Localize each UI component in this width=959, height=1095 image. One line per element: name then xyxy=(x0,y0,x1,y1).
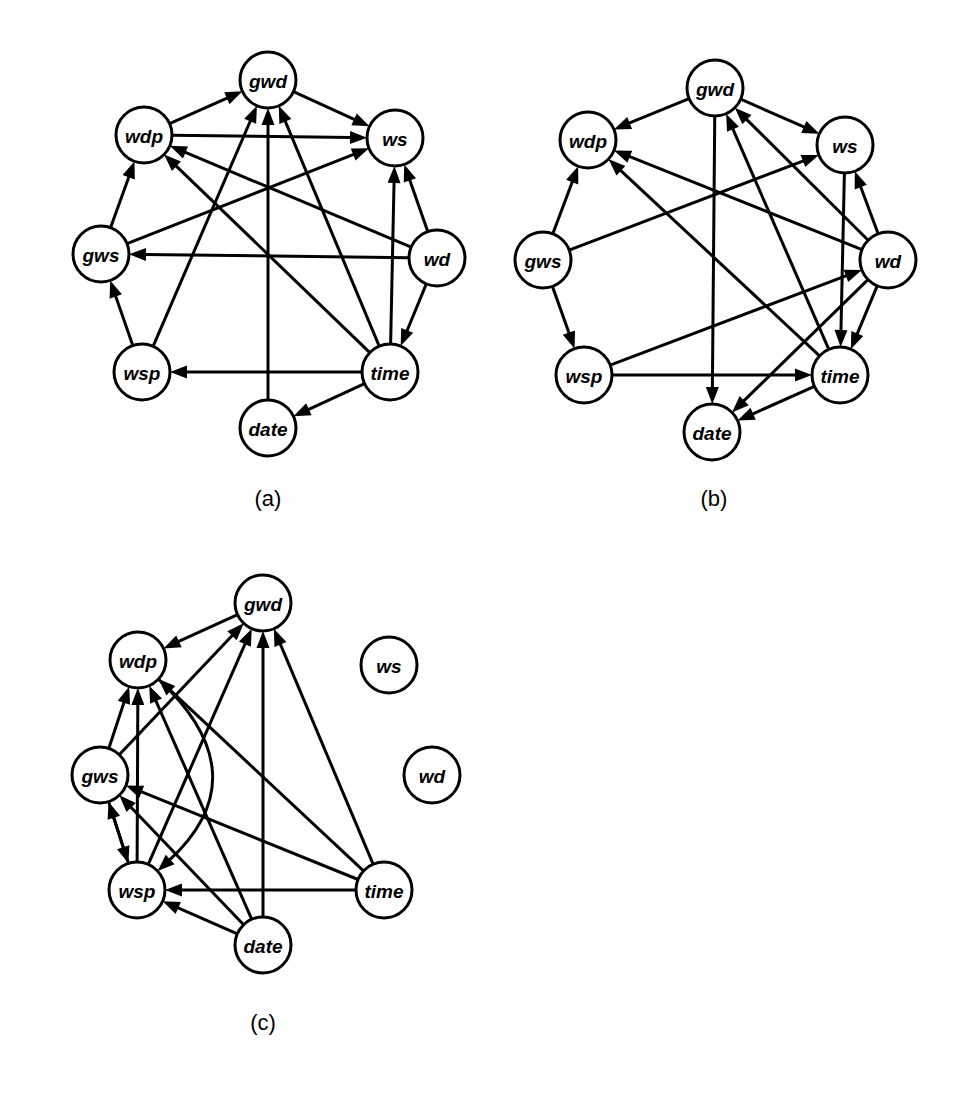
edge-c-date-to-wsp xyxy=(176,907,237,934)
arrowhead-c-date-to-wsp xyxy=(163,901,181,914)
edge-a-time-to-ws xyxy=(391,181,394,344)
node-a-ws[interactable]: ws xyxy=(367,110,423,166)
arrowhead-b-time-to-gwd xyxy=(726,114,739,132)
node-label-b-wd: wd xyxy=(875,251,902,272)
arrowhead-c-date-to-gwd xyxy=(257,631,270,648)
node-label-c-wsp: wsp xyxy=(119,881,156,902)
edge-b-gwd-to-date xyxy=(712,116,714,389)
arrowhead-c-wsp-to-gwd xyxy=(239,629,252,647)
node-label-a-ws: ws xyxy=(382,129,407,150)
arrowhead-b-wd-to-time xyxy=(851,331,864,349)
arrowhead-a-wdp-to-gwd xyxy=(224,91,242,104)
arrowhead-b-wsp-to-time xyxy=(795,369,812,382)
edge-c-date-to-wdp xyxy=(155,699,251,919)
node-label-a-wsp: wsp xyxy=(124,363,161,384)
node-a-gws[interactable]: gws xyxy=(73,226,129,282)
arrowhead-b-gws-to-wdp xyxy=(566,166,578,184)
arrowhead-a-time-to-date xyxy=(293,403,311,416)
node-c-wdp[interactable]: wdp xyxy=(110,632,166,688)
node-c-ws[interactable]: ws xyxy=(361,637,417,693)
node-label-a-gws: gws xyxy=(82,245,120,266)
node-b-wd[interactable]: wd xyxy=(860,232,916,288)
arrowhead-b-gws-to-wsp xyxy=(563,330,575,348)
edge-b-gws-to-wsp xyxy=(552,286,569,334)
graph-figure-svg: gwdwdpwsgwswdwsptimedate(a)gwdwdpwsgwswd… xyxy=(0,0,959,1095)
node-b-time[interactable]: time xyxy=(812,347,868,403)
arrowhead-c-wsp-to-gws xyxy=(108,802,120,820)
arrowhead-a-gwd-to-ws xyxy=(351,113,369,126)
arrowhead-b-wsp-to-wd xyxy=(844,270,862,282)
edge-b-gws-to-ws xyxy=(569,160,805,250)
node-label-a-gwd: gwd xyxy=(248,71,287,92)
edge-b-time-to-gwd xyxy=(732,127,829,349)
arrowhead-a-wdp-to-ws xyxy=(350,131,367,144)
node-a-gwd[interactable]: gwd xyxy=(240,52,296,108)
arrowhead-a-time-to-ws xyxy=(388,166,401,183)
arrowhead-b-gws-to-ws xyxy=(801,155,819,167)
node-b-ws[interactable]: ws xyxy=(817,117,873,173)
edge-a-wd-to-time xyxy=(406,284,426,332)
edge-b-gws-to-wdp xyxy=(553,180,573,234)
arrowhead-c-time-to-gws xyxy=(126,786,144,798)
node-c-wd[interactable]: wd xyxy=(404,747,460,803)
node-a-wdp[interactable]: wdp xyxy=(116,107,172,163)
edge-b-ws-to-time xyxy=(841,173,844,332)
panel-caption-a: (a) xyxy=(255,486,282,511)
panel-caption-c: (c) xyxy=(250,1010,276,1035)
edge-c-wsp-to-wdp xyxy=(137,703,138,862)
edge-b-time-to-date xyxy=(751,386,814,414)
node-a-date[interactable]: date xyxy=(240,400,296,456)
node-a-wd[interactable]: wd xyxy=(409,230,465,286)
node-b-date[interactable]: date xyxy=(684,404,740,460)
arrowhead-c-gwd-to-wdp xyxy=(163,635,181,648)
node-a-time[interactable]: time xyxy=(362,344,418,400)
node-c-date[interactable]: date xyxy=(235,917,291,973)
edge-a-wd-to-ws xyxy=(409,179,428,232)
node-label-c-gws: gws xyxy=(81,766,119,787)
node-label-a-date: date xyxy=(248,419,288,440)
edge-a-wdp-to-gwd xyxy=(170,97,229,123)
edge-c-wsp-to-gws xyxy=(113,816,128,863)
node-label-c-wd: wd xyxy=(419,766,446,787)
arrowhead-b-time-to-date xyxy=(738,408,756,421)
arrowhead-c-time-to-wsp xyxy=(165,884,182,897)
arrowhead-a-wd-to-time xyxy=(401,328,413,346)
node-label-c-wdp: wdp xyxy=(119,651,157,672)
edge-a-gws-to-wdp xyxy=(111,175,130,227)
node-label-c-date: date xyxy=(243,936,283,957)
node-a-wsp[interactable]: wsp xyxy=(114,344,170,400)
node-c-wsp[interactable]: wsp xyxy=(109,862,165,918)
arrowhead-c-date-to-wdp xyxy=(149,686,162,704)
node-label-c-time: time xyxy=(364,881,404,902)
node-b-gws[interactable]: gws xyxy=(515,232,571,288)
panel-b: gwdwdpwsgwswdwsptimedate(b) xyxy=(515,60,916,511)
node-c-gwd[interactable]: gwd xyxy=(235,575,291,631)
panel-c-nodes: gwdwdpwsgwswdwsptimedate xyxy=(72,575,460,973)
edge-a-time-to-gwd xyxy=(285,120,380,346)
arrowhead-c-gws-to-wdp xyxy=(118,687,130,705)
node-b-wsp[interactable]: wsp xyxy=(556,347,612,403)
panel-a: gwdwdpwsgwswdwsptimedate(a) xyxy=(73,52,465,511)
edge-b-wd-to-time xyxy=(857,286,878,335)
node-b-wdp[interactable]: wdp xyxy=(560,112,616,168)
node-label-b-wdp: wdp xyxy=(569,131,607,152)
arrowhead-c-time-to-gwd xyxy=(274,629,287,647)
edge-c-gws-to-wdp xyxy=(109,701,125,749)
edge-a-wdp-to-ws xyxy=(172,135,352,137)
arrowhead-a-wd-to-ws xyxy=(404,164,416,182)
edge-a-gwd-to-ws xyxy=(293,92,355,121)
arrowhead-a-time-to-gwd xyxy=(279,106,292,124)
arrowhead-a-date-to-gwd xyxy=(262,108,275,125)
node-label-b-ws: ws xyxy=(832,136,857,157)
node-label-a-wd: wd xyxy=(424,249,451,270)
node-label-a-time: time xyxy=(370,363,410,384)
node-label-b-wsp: wsp xyxy=(566,366,603,387)
node-c-gws[interactable]: gws xyxy=(72,747,128,803)
node-label-b-gwd: gwd xyxy=(695,79,734,100)
node-c-time[interactable]: time xyxy=(356,862,412,918)
figure-container: gwdwdpwsgwswdwsptimedate(a)gwdwdpwsgwswd… xyxy=(0,0,959,1095)
edge-b-gwd-to-wdp xyxy=(628,99,689,124)
node-b-gwd[interactable]: gwd xyxy=(687,60,743,116)
arrowhead-b-wd-to-wdp xyxy=(614,150,632,162)
arrowhead-a-gws-to-wdp xyxy=(123,161,135,179)
